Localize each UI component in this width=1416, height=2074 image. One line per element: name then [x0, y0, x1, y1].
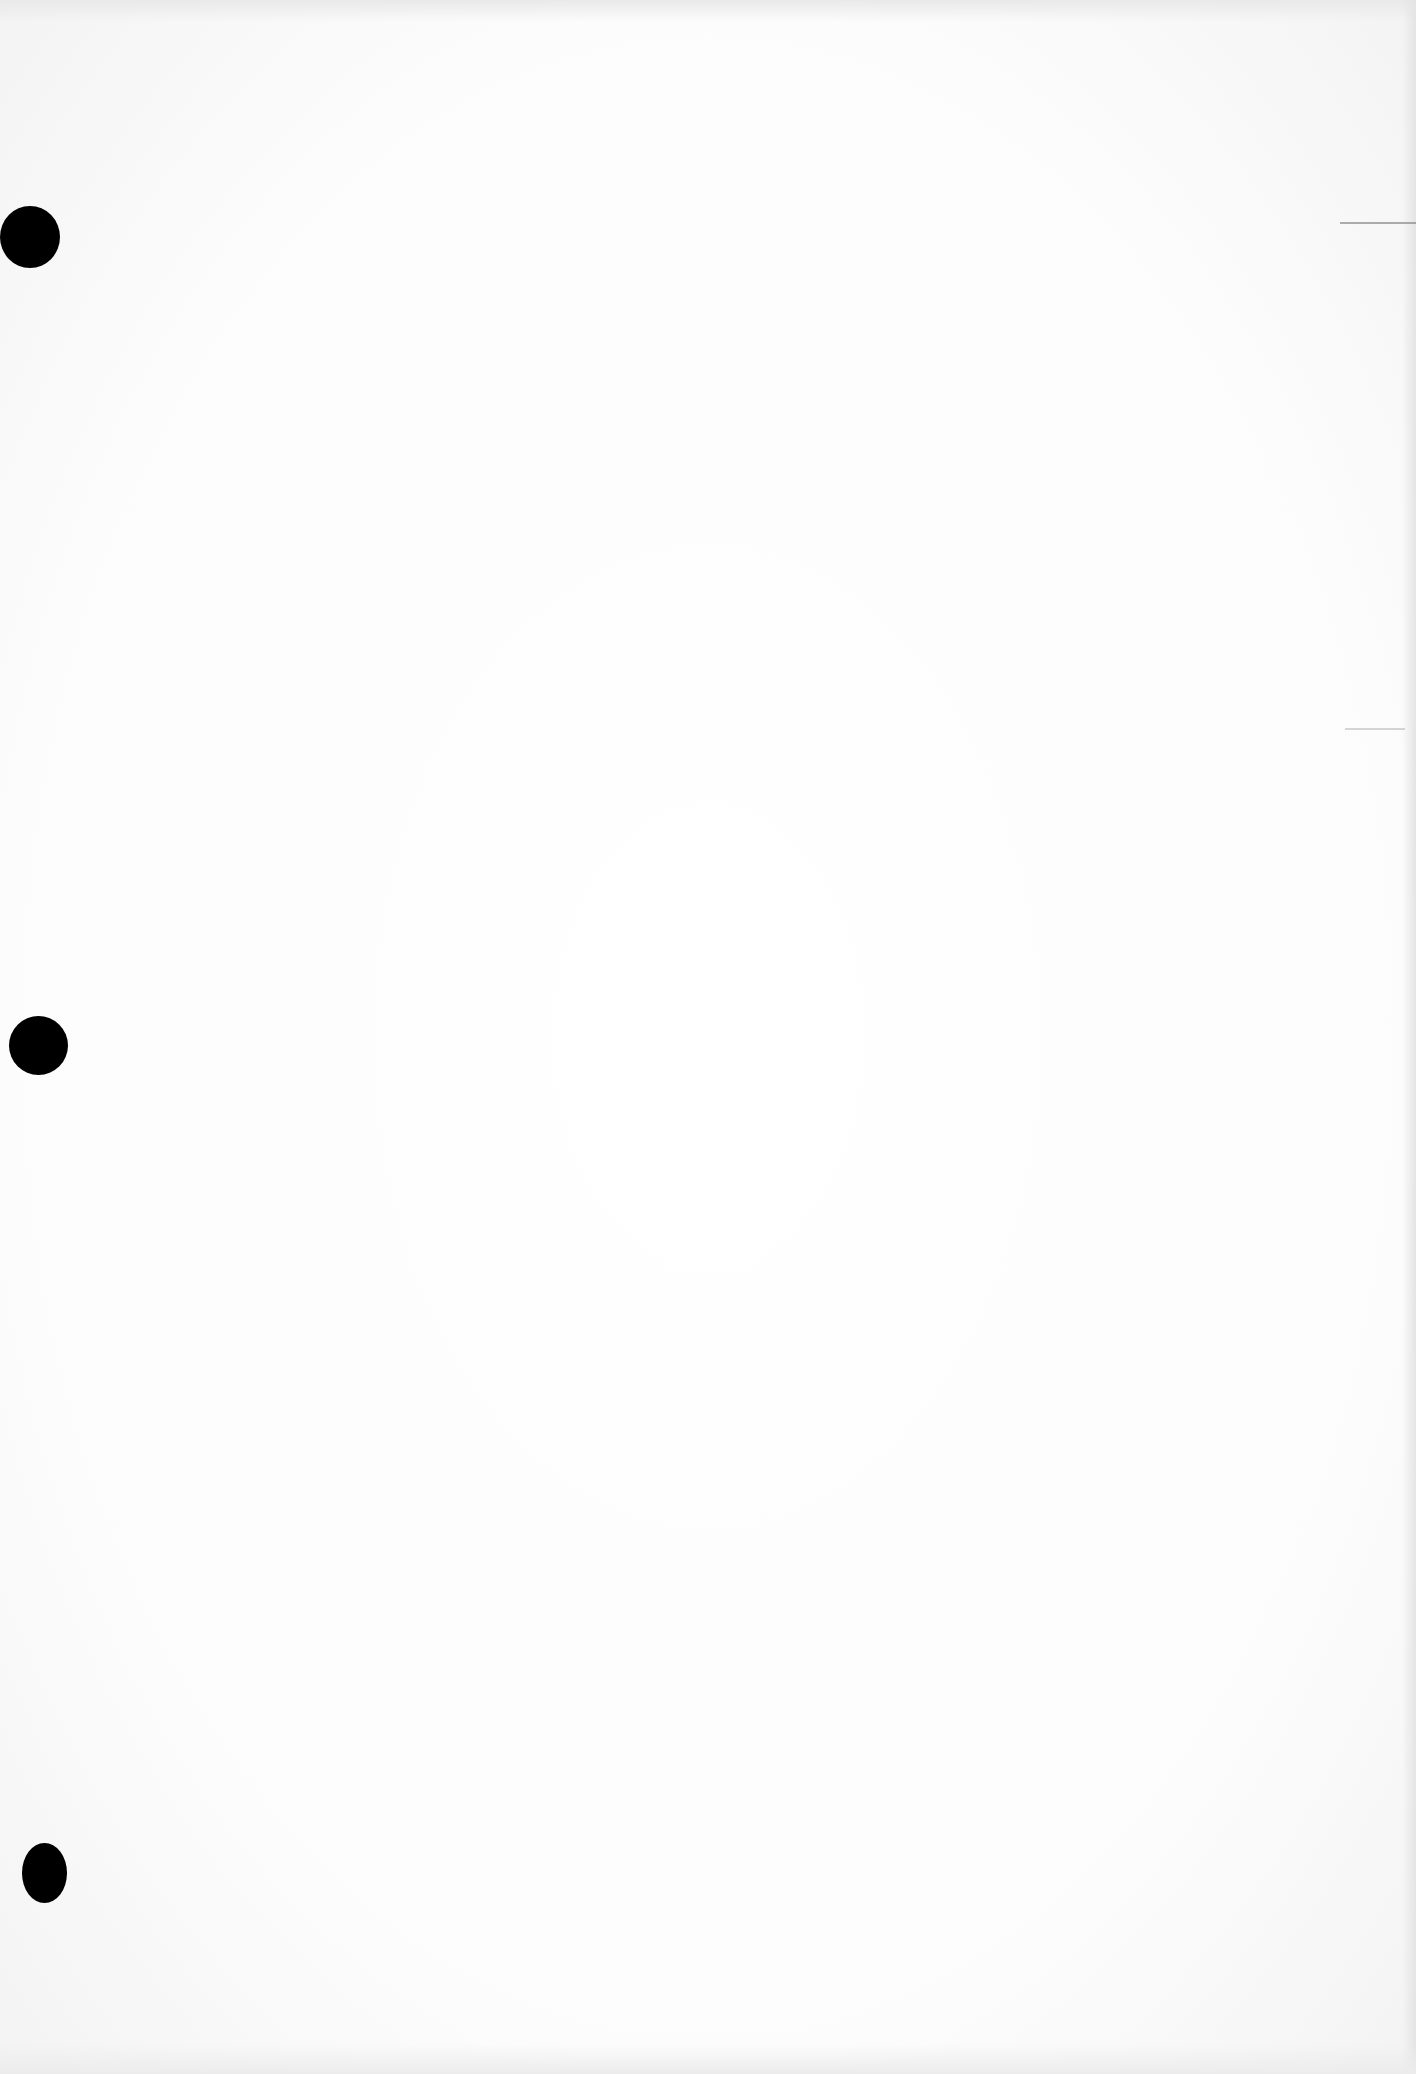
scan-shadow-right — [1402, 0, 1416, 2074]
scan-mark-line — [1345, 728, 1405, 730]
punch-hole-bottom — [22, 1843, 67, 1903]
scan-shadow-bottom — [0, 2044, 1416, 2074]
blank-scanned-page — [0, 0, 1416, 2074]
scan-mark-line — [1340, 222, 1416, 224]
punch-hole-top — [0, 206, 60, 268]
scan-shadow-top — [0, 0, 1416, 22]
punch-hole-middle — [9, 1016, 68, 1075]
